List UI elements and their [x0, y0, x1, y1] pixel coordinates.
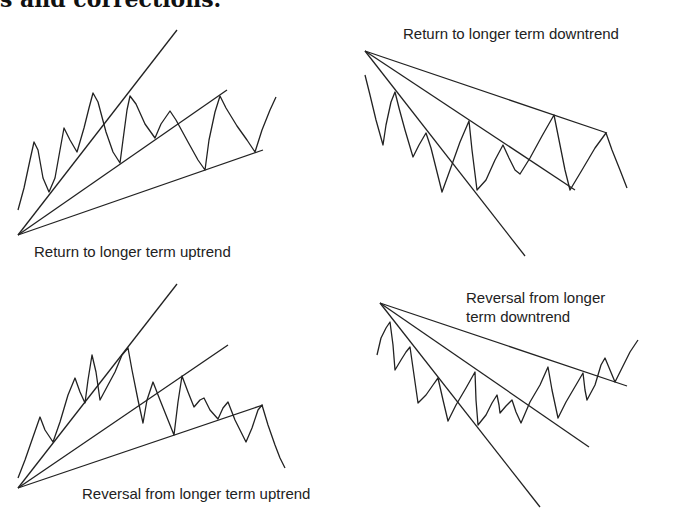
trendline-1	[365, 51, 607, 133]
caption-line-1: Reversal from longer	[466, 288, 605, 307]
trendline-2	[18, 90, 227, 235]
panel-reversal-downtrend	[377, 303, 638, 507]
caption-return-downtrend: Return to longer term downtrend	[403, 24, 619, 43]
price-path	[377, 322, 638, 425]
trendline-3	[18, 150, 263, 235]
price-path	[18, 348, 285, 478]
price-path	[18, 93, 276, 210]
panel-reversal-uptrend	[18, 284, 285, 488]
trendline-2	[18, 345, 228, 488]
caption-reversal-uptrend: Reversal from longer term uptrend	[82, 484, 310, 503]
trendline-1	[18, 30, 177, 235]
caption-reversal-downtrend: Reversal from longer term downtrend	[466, 288, 605, 326]
trendline-3	[365, 51, 525, 256]
caption-line-2: term downtrend	[466, 307, 605, 326]
panel-return-uptrend	[18, 30, 276, 235]
panel-return-downtrend	[365, 51, 627, 256]
trendline-3	[380, 303, 540, 507]
caption-return-uptrend: Return to longer term uptrend	[34, 242, 231, 261]
trendline-3	[18, 405, 263, 488]
price-path	[365, 75, 627, 192]
trendline-2	[365, 51, 575, 190]
